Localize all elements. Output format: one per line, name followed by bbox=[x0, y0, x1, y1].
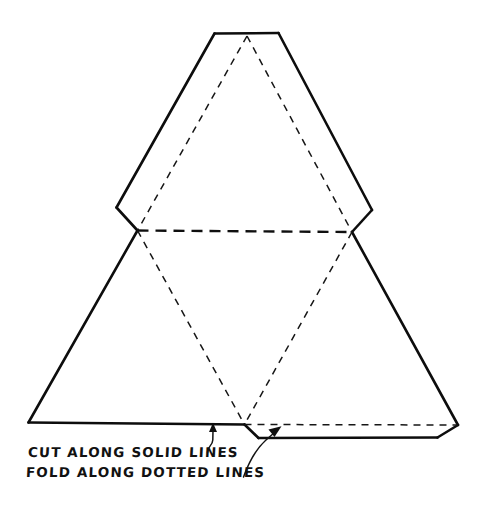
cut-edge-right-notch bbox=[352, 210, 372, 232]
cut-edge-lower-right bbox=[352, 232, 458, 425]
diagram-canvas: CUT ALONG SOLID LINES FOLD ALONG DOTTED … bbox=[0, 0, 486, 517]
fold-line-mid-horizontal bbox=[138, 231, 353, 233]
cut-edge-top bbox=[215, 33, 279, 34]
fold-line-upper-left-diagonal bbox=[138, 36, 248, 231]
cut-along-solid-lines-label: CUT ALONG SOLID LINES bbox=[28, 444, 239, 460]
cut-edge-tab-right bbox=[438, 425, 459, 438]
fold-line-tab bbox=[245, 425, 458, 426]
cut-edge-tab-bottom bbox=[259, 438, 438, 439]
fold-along-dotted-lines-label: FOLD ALONG DOTTED LINES bbox=[26, 464, 266, 480]
fold-line-upper-right-diagonal bbox=[247, 36, 352, 232]
tetrahedron-net-figure bbox=[0, 0, 486, 517]
cut-edge-tab-left bbox=[245, 425, 259, 439]
cut-edge-lower-left bbox=[29, 231, 138, 423]
cut-edge-bottom-left bbox=[29, 423, 245, 425]
fold-line-lower-left-diagonal bbox=[138, 231, 245, 425]
fold-line-lower-right-diagonal bbox=[245, 232, 353, 425]
cut-edge-left-notch bbox=[117, 208, 138, 231]
